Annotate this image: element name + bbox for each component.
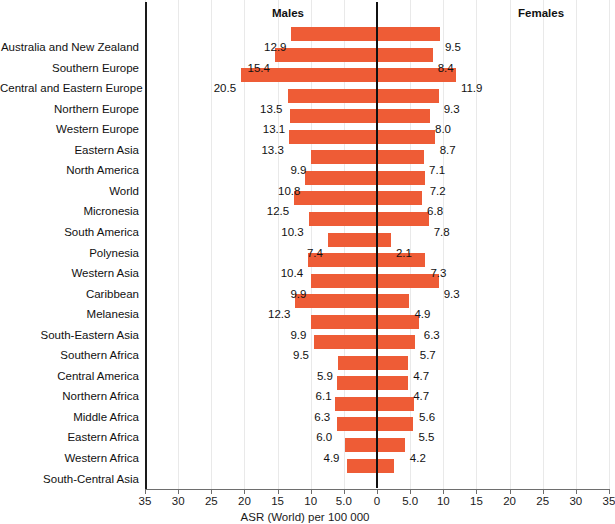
x-tick-label: 30 xyxy=(172,495,185,507)
x-tick xyxy=(476,489,477,494)
gridline xyxy=(178,0,179,490)
gridline xyxy=(543,0,544,490)
category-label: Caribbean xyxy=(0,288,139,300)
bar-male xyxy=(337,417,377,431)
bar-female xyxy=(377,233,391,247)
x-tick-label: 15 xyxy=(470,495,483,507)
value-label-female: 5.5 xyxy=(418,431,434,443)
category-label: Western Asia xyxy=(0,267,139,279)
bar-female xyxy=(377,459,394,473)
x-tick-label: 20 xyxy=(238,495,251,507)
value-label-male: 13.1 xyxy=(263,123,285,135)
males-panel-header: Males xyxy=(272,7,304,19)
gridline xyxy=(609,0,610,490)
value-label-female: 4.7 xyxy=(413,390,429,402)
category-label: Southern Africa xyxy=(0,349,139,361)
zero-axis-line xyxy=(376,2,378,488)
x-tick-label: 15 xyxy=(271,495,284,507)
value-label-female: 9.3 xyxy=(444,103,460,115)
value-label-female: 5.7 xyxy=(420,349,436,361)
category-label: Polynesia xyxy=(0,247,139,259)
value-label-male: 12.9 xyxy=(264,41,286,53)
x-tick xyxy=(576,489,577,494)
x-tick xyxy=(543,489,544,494)
bar-male xyxy=(309,212,377,226)
x-tick-label: 35 xyxy=(603,495,615,507)
value-label-female: 6.3 xyxy=(424,329,440,341)
value-label-male: 13.3 xyxy=(261,144,283,156)
plot-area: 12.99.515.48.420.511.913.59.313.18.013.3… xyxy=(145,0,609,490)
category-label: South-Central Asia xyxy=(0,473,139,485)
bar-male xyxy=(311,315,377,329)
value-label-male: 9.9 xyxy=(290,288,306,300)
bar-female xyxy=(377,191,422,205)
bar-male xyxy=(311,150,377,164)
bar-male xyxy=(291,27,377,41)
category-label: Australia and New Zealand xyxy=(0,41,139,53)
x-tick-label: 10 xyxy=(304,495,317,507)
category-label: Southern Europe xyxy=(0,62,139,74)
bar-female xyxy=(377,417,413,431)
value-label-female: 5.6 xyxy=(419,411,435,423)
category-label: North America xyxy=(0,164,139,176)
x-tick xyxy=(344,489,345,494)
bar-female xyxy=(377,376,408,390)
x-tick-label: 5.0 xyxy=(402,495,418,507)
value-label-male: 4.9 xyxy=(324,452,340,464)
value-label-female: 7.2 xyxy=(430,185,446,197)
bar-male xyxy=(295,294,377,308)
category-label: Northern Europe xyxy=(0,103,139,115)
x-tick xyxy=(178,489,179,494)
x-tick-label: 30 xyxy=(569,495,582,507)
category-label: Central and Eastern Europe xyxy=(0,82,139,94)
gridline xyxy=(576,0,577,490)
bar-female xyxy=(377,212,429,226)
category-label: Western Europe xyxy=(0,123,139,135)
bar-male xyxy=(275,48,377,62)
bar-female xyxy=(377,438,405,452)
value-label-male: 5.9 xyxy=(317,370,333,382)
value-label-female: 7.8 xyxy=(434,226,450,238)
x-tick xyxy=(311,489,312,494)
value-label-female: 8.0 xyxy=(435,123,451,135)
x-tick xyxy=(609,489,610,494)
x-tick-label: 35 xyxy=(139,495,152,507)
bar-male xyxy=(314,335,377,349)
value-label-female: 4.7 xyxy=(413,370,429,382)
bar-female xyxy=(377,27,440,41)
category-label: South-Eastern Asia xyxy=(0,329,139,341)
x-tick xyxy=(510,489,511,494)
gridline xyxy=(211,0,212,490)
value-label-male: 6.3 xyxy=(314,411,330,423)
x-tick xyxy=(410,489,411,494)
bar-female xyxy=(377,109,430,123)
gridline xyxy=(510,0,511,490)
value-label-male: 10.8 xyxy=(278,185,300,197)
value-label-female: 8.4 xyxy=(438,62,454,74)
value-label-male: 10.3 xyxy=(281,226,303,238)
bar-male xyxy=(335,397,377,411)
category-label: Western Africa xyxy=(0,452,139,464)
bar-male xyxy=(328,233,377,247)
value-label-male: 7.4 xyxy=(307,247,323,259)
bar-male xyxy=(347,459,377,473)
x-tick xyxy=(443,489,444,494)
category-label: World xyxy=(0,185,139,197)
value-label-male: 10.4 xyxy=(281,267,303,279)
value-label-male: 15.4 xyxy=(248,62,270,74)
value-label-male: 20.5 xyxy=(214,82,236,94)
x-tick xyxy=(377,489,378,494)
category-label: Central America xyxy=(0,370,139,382)
bar-female xyxy=(377,335,415,349)
gridline xyxy=(476,0,477,490)
bar-male xyxy=(290,109,377,123)
y-axis-spine xyxy=(145,2,147,490)
x-tick-label: 5.0 xyxy=(336,495,352,507)
value-label-female: 4.2 xyxy=(410,452,426,464)
x-tick xyxy=(145,489,146,494)
bar-female xyxy=(377,171,425,185)
category-label: Northern Africa xyxy=(0,390,139,402)
value-label-female: 8.7 xyxy=(440,144,456,156)
bar-male xyxy=(294,191,377,205)
value-label-female: 11.9 xyxy=(461,82,483,94)
